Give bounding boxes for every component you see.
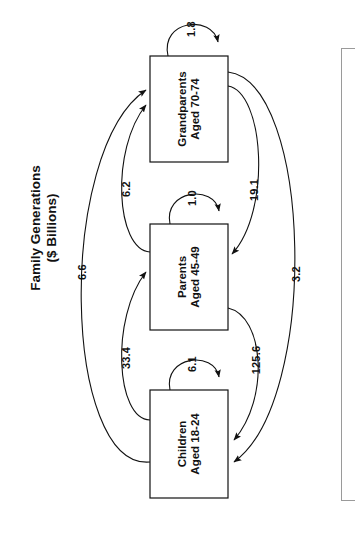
page-edge-rule-top [341, 48, 355, 49]
edge-value-parents-to-children: 125.6 [250, 346, 262, 375]
page-edge-rule-bottom [341, 500, 355, 501]
edge-grandparents-to-parents [228, 86, 259, 254]
node-label-grandparents: Grandparents Aged 70-74 [176, 71, 202, 146]
node-label-grandparents-line2: Aged 70-74 [189, 71, 202, 146]
edge-value-children-to-parents: 33.4 [120, 347, 132, 369]
figure-title-line2: ($ Billions) [44, 165, 60, 290]
self-loop-value-parents: 1.0 [186, 190, 198, 206]
node-label-parents: Parents Aged 45-49 [176, 246, 202, 307]
self-loop-value-children: 6.1 [186, 356, 198, 372]
node-label-parents-line2: Aged 45-49 [189, 246, 202, 307]
figure-title: Family Generations ($ Billions) [28, 165, 60, 290]
edge-children-to-grandparents [81, 90, 150, 462]
node-label-children: Children Aged 18-24 [176, 413, 202, 474]
edge-value-parents-to-grandparents: 6.2 [120, 181, 132, 197]
edge-value-children-to-grandparents: 6.6 [76, 264, 88, 280]
edge-grandparents-to-children [228, 72, 295, 462]
edge-value-grandparents-to-parents: 19.1 [248, 179, 260, 201]
self-loop-value-grandparents: 1.8 [185, 21, 197, 37]
node-label-children-line2: Aged 18-24 [189, 413, 202, 474]
figure-canvas: Grandparents Aged 70-74 Parents Aged 45-… [0, 0, 355, 540]
node-label-grandparents-line1: Grandparents [176, 71, 189, 146]
node-label-parents-line1: Parents [176, 246, 189, 307]
page-edge-rule-vertical [341, 48, 342, 500]
node-label-children-line1: Children [176, 413, 189, 474]
edge-value-grandparents-to-children: 3.2 [290, 266, 302, 282]
figure-title-line1: Family Generations [28, 165, 44, 290]
edge-parents-to-grandparents [122, 105, 150, 252]
